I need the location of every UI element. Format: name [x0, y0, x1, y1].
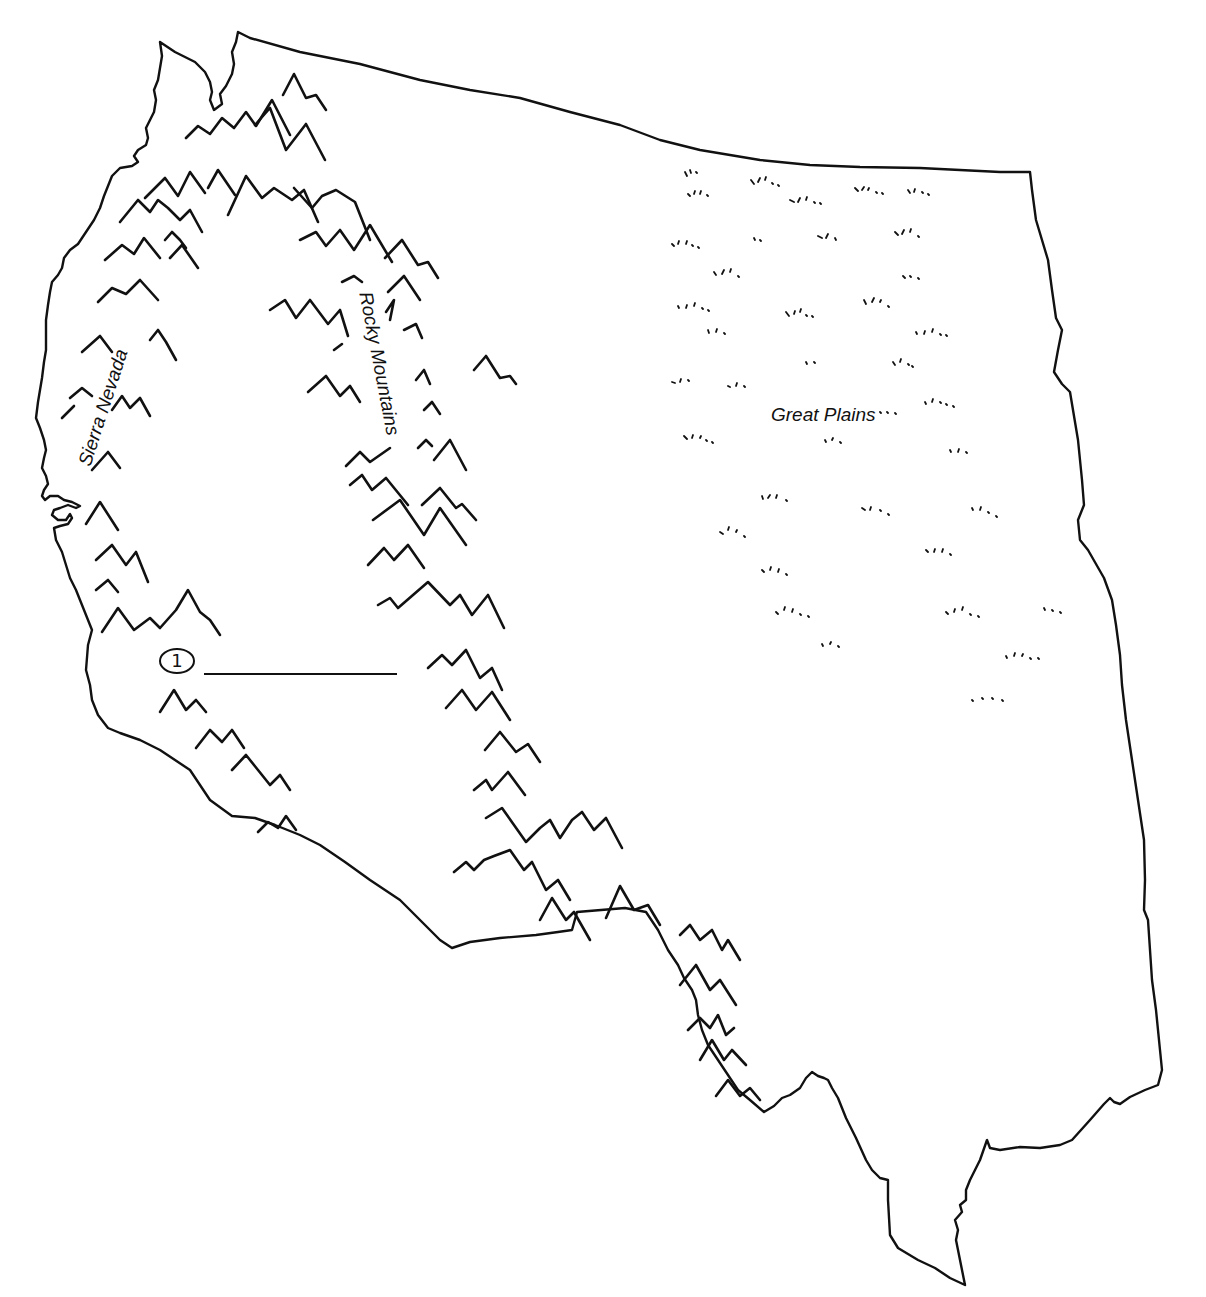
- label-great-plains: Great Plains: [771, 404, 876, 426]
- great-plains-grass: [672, 170, 1061, 701]
- region-outline: [36, 32, 1162, 1285]
- rocky-mountains: [270, 225, 760, 1100]
- marker-1: 1: [159, 648, 195, 674]
- marker-1-leader-line: [204, 673, 397, 675]
